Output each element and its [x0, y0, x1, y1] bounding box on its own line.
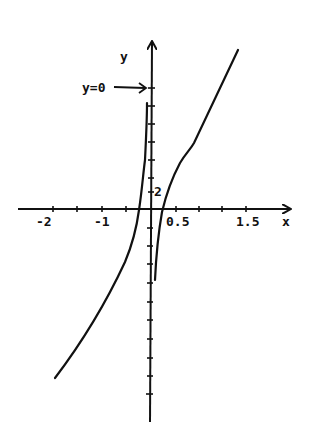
x-tick-label-neg2: -2	[36, 215, 52, 228]
y-axis-label: y	[120, 50, 128, 63]
x-axis-label: x	[282, 215, 290, 228]
curve-right-branch	[155, 50, 238, 280]
x-tick-label-neg1: -1	[94, 215, 110, 228]
curve-left-branch	[55, 103, 147, 378]
y-axis	[150, 42, 152, 422]
annotation-arrow	[114, 83, 146, 93]
x-tick-label-0-5: 0.5	[166, 215, 189, 228]
annotation-label: y=0	[82, 81, 105, 94]
x-tick-label-1-5: 1.5	[236, 215, 259, 228]
y-tick-label-2: 2	[154, 185, 162, 198]
